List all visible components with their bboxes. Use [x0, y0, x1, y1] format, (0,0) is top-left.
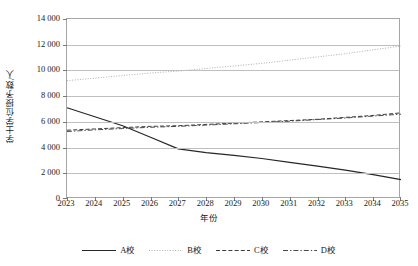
x-tick-label: 2032 — [308, 199, 325, 208]
y-tick-mark — [63, 96, 67, 97]
chart-legend: A校B校C校D校 — [0, 242, 418, 258]
y-tick-label: 6 000 — [41, 117, 60, 126]
legend-item-D校[interactable]: D校 — [283, 246, 336, 255]
series-line-A校 — [67, 108, 401, 180]
legend-label: A校 — [120, 246, 135, 255]
gridline — [67, 70, 399, 71]
y-tick-label: 10 000 — [37, 65, 60, 74]
legend-swatch-B校-icon — [149, 246, 183, 255]
legend-label: D校 — [321, 246, 336, 255]
gridline — [67, 96, 399, 97]
gridline — [67, 173, 399, 174]
x-tick-label: 2031 — [280, 199, 297, 208]
legend-item-A校[interactable]: A校 — [82, 246, 135, 255]
y-axis-tick-labels: 02 0004 0006 0008 00010 00012 00014 000 — [18, 0, 64, 266]
x-tick-label: 2028 — [197, 199, 214, 208]
y-tick-mark — [63, 148, 67, 149]
x-tick-label: 2027 — [169, 199, 186, 208]
legend-item-C校[interactable]: C校 — [216, 246, 269, 255]
y-tick-label: 12 000 — [37, 39, 60, 48]
x-tick-label: 2033 — [336, 199, 353, 208]
legend-swatch-C校-icon — [216, 246, 250, 255]
y-tick-label: 4 000 — [41, 142, 60, 151]
x-tick-label: 2034 — [364, 199, 381, 208]
legend-label: C校 — [254, 246, 269, 255]
x-tick-label: 2035 — [392, 199, 409, 208]
x-tick-label: 2023 — [58, 199, 75, 208]
x-tick-label: 2025 — [113, 199, 130, 208]
legend-item-B校[interactable]: B校 — [149, 246, 202, 255]
y-tick-label: 14 000 — [37, 14, 60, 23]
y-tick-label: 8 000 — [41, 91, 60, 100]
x-tick-label: 2026 — [141, 199, 158, 208]
y-tick-mark — [63, 173, 67, 174]
x-axis-tick-labels: 2023202420252026202720282029203020312032… — [66, 199, 400, 213]
line-chart: 学士学位授予数/人 02 0004 0006 0008 00010 00012 … — [0, 0, 418, 266]
legend-swatch-A校-icon — [82, 246, 116, 255]
x-tick-label: 2029 — [225, 199, 242, 208]
y-tick-mark — [63, 45, 67, 46]
y-tick-label: 2 000 — [41, 168, 60, 177]
gridline — [67, 45, 399, 46]
y-axis-title: 学士学位授予数/人 — [4, 48, 18, 164]
series-layer — [67, 19, 401, 199]
legend-label: B校 — [187, 246, 202, 255]
x-axis-title: 年份 — [0, 214, 418, 223]
legend-swatch-D校-icon — [283, 246, 317, 255]
x-tick-label: 2030 — [252, 199, 269, 208]
gridline — [67, 148, 399, 149]
gridline — [67, 122, 399, 123]
y-tick-mark — [63, 70, 67, 71]
plot-area — [66, 18, 400, 198]
y-tick-mark — [63, 19, 67, 20]
y-tick-mark — [63, 122, 67, 123]
series-line-B校 — [67, 46, 401, 81]
x-tick-label: 2024 — [85, 199, 102, 208]
